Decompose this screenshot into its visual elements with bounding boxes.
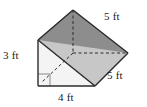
dimension-label-length-top: 5 ft [104,11,120,22]
prism-figure: 3 ft 4 ft 5 ft 5 ft [0,0,147,107]
dimension-label-height: 3 ft [3,50,19,61]
dimension-label-length-bottom: 5 ft [107,70,123,81]
dimension-label-base: 4 ft [58,92,74,103]
